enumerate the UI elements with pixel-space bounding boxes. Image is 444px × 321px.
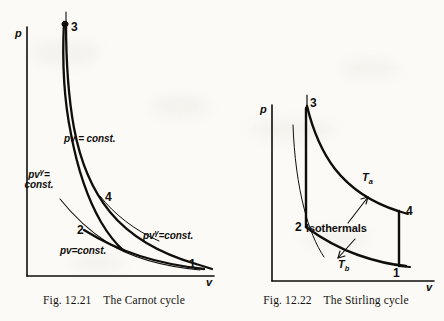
figure-carnot-cycle: p v 3 4 2 1 pv = const. pvγ= const. pvγ=… — [0, 0, 228, 321]
stirling-cycle-plot — [228, 0, 444, 292]
stirling-point-label-1: 1 — [393, 267, 400, 280]
stirling-caption: Fig. 12.22 The Stirling cycle — [228, 294, 444, 306]
carnot-point-label-1: 1 — [189, 258, 196, 271]
carnot-label-adiabatic-left: pvγ= const. — [16, 170, 62, 190]
carnot-point-label-4: 4 — [105, 191, 112, 204]
carnot-caption: Fig. 12.21 The Carnot cycle — [0, 294, 228, 306]
carnot-point-label-3: 3 — [71, 21, 78, 34]
stirling-isothermal-ta — [307, 106, 398, 211]
carnot-label-isothermal-upper: pv = const. — [64, 134, 115, 145]
carnot-cycle-plot — [0, 0, 228, 292]
stirling-leader-upper — [348, 197, 368, 223]
carnot-label-adiabatic-left-line2: const. — [25, 179, 54, 190]
stirling-point-label-4: 4 — [406, 205, 413, 218]
carnot-point-label-2: 2 — [77, 224, 84, 237]
carnot-x-axis-label: v — [206, 277, 212, 289]
figure-stirling-cycle: p v 3 4 2 1 Ta Tb Isothermals Fig. 12.22… — [228, 0, 444, 321]
stirling-label-temperature-hot: Ta — [362, 172, 373, 184]
stirling-point-label-2: 2 — [295, 221, 302, 234]
carnot-label-adiabatic-right: pvγ=const. — [143, 231, 193, 242]
carnot-label-isothermal-lower: pv=const. — [60, 246, 106, 257]
stirling-tail-at-1 — [399, 266, 410, 267]
stirling-label-temperature-cold: Tb — [338, 259, 349, 271]
stirling-y-axis-label: p — [260, 104, 267, 116]
stirling-x-axis-label: v — [426, 282, 432, 294]
stirling-point-label-3: 3 — [310, 97, 317, 110]
carnot-y-axis-label: p — [15, 28, 22, 40]
stirling-label-isothermals: Isothermals — [306, 223, 367, 235]
